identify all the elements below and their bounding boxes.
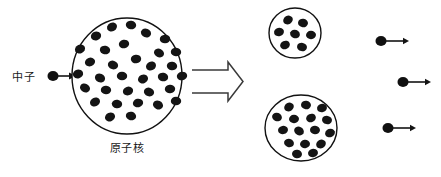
emitted-neutron-3-ball bbox=[383, 123, 394, 133]
fragment-small-group bbox=[269, 8, 321, 58]
emitted-neutron-2-arrow-head bbox=[425, 79, 431, 85]
parent-nucleus-group: 原子核 bbox=[72, 18, 188, 155]
fission-arrow-shape bbox=[192, 62, 243, 101]
emitted-neutron-2-ball bbox=[398, 77, 409, 87]
incoming-neutron-ball bbox=[48, 71, 59, 81]
incoming-neutron-group: 中子 bbox=[12, 71, 76, 84]
fission-diagram: 中子 原子核 bbox=[0, 0, 441, 177]
nucleon-dot bbox=[171, 97, 181, 106]
fragment-large-group bbox=[265, 95, 337, 161]
fission-process-arrow bbox=[192, 62, 243, 101]
parent-nucleus-label: 原子核 bbox=[110, 141, 145, 155]
emitted-neutrons-group bbox=[376, 36, 432, 133]
emitted-neutron-1-ball bbox=[376, 36, 387, 46]
emitted-neutron-3-arrow-head bbox=[410, 125, 416, 131]
emitted-neutron-1-arrow-head bbox=[403, 38, 409, 44]
fission-diagram-canvas: 中子 原子核 bbox=[0, 0, 441, 177]
incoming-neutron-label: 中子 bbox=[12, 71, 35, 84]
